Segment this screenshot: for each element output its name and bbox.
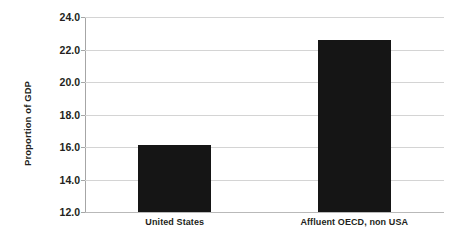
x-axis-category-label: United States: [75, 217, 275, 227]
bar: [318, 40, 391, 212]
y-axis-tick-label: 12.0: [44, 207, 80, 218]
y-axis-tick-mark: [81, 212, 85, 213]
y-axis-tick-labels: 12.014.016.018.020.022.024.0: [40, 17, 80, 212]
gridline: [85, 212, 444, 213]
y-axis-tick-mark: [81, 115, 85, 116]
y-axis-tick-label: 16.0: [44, 142, 80, 153]
plot-area: [85, 17, 444, 212]
y-axis-tick-label: 24.0: [44, 12, 80, 23]
x-axis-category-labels: United StatesAffluent OECD, non USA: [85, 217, 444, 237]
y-axis-tick-label: 20.0: [44, 77, 80, 88]
y-axis-tick-mark: [81, 17, 85, 18]
x-axis-category-label: Affluent OECD, non USA: [254, 217, 454, 227]
y-axis-tick-mark: [81, 50, 85, 51]
y-axis-title: Proportion of GDP: [18, 0, 36, 247]
bar-chart: Proportion of GDP 12.014.016.018.020.022…: [0, 0, 468, 247]
y-axis-tick-mark: [81, 147, 85, 148]
y-axis-tick-mark: [81, 180, 85, 181]
bar: [138, 145, 211, 212]
y-axis-tick-label: 14.0: [44, 174, 80, 185]
y-axis-tick-mark: [81, 82, 85, 83]
y-axis-tick-label: 22.0: [44, 44, 80, 55]
y-axis-tick-label: 18.0: [44, 109, 80, 120]
gridline: [85, 17, 444, 18]
